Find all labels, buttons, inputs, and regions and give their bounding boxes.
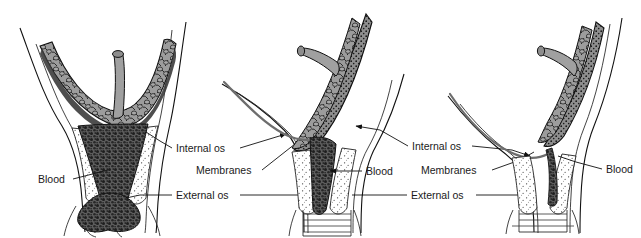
- label-membranes-left: Membranes: [196, 164, 251, 176]
- label-external-os-left: External os: [176, 189, 229, 201]
- label-blood-panel-1: Blood: [38, 173, 65, 185]
- figure-canvas: Blood Internal os Membranes External os: [0, 0, 641, 238]
- label-internal-os-right: Internal os: [412, 140, 461, 152]
- label-blood-panel-2: Blood: [366, 165, 393, 177]
- label-membranes-right: Membranes: [421, 164, 476, 176]
- label-blood-panel-3: Blood: [606, 163, 633, 175]
- placenta-praevia-figure: Blood Internal os Membranes External os: [0, 0, 641, 238]
- label-external-os-right: External os: [411, 189, 464, 201]
- umbilical-cord-cut-end-3: [537, 46, 544, 56]
- label-internal-os-left: Internal os: [176, 142, 225, 154]
- umbilical-cord-cut-end-2: [297, 46, 304, 56]
- umbilical-cord-cut-end: [113, 51, 124, 58]
